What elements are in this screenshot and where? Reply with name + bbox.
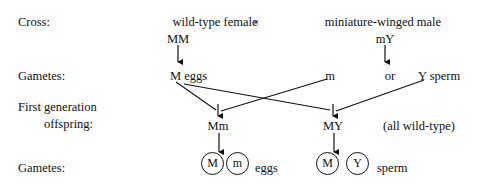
genetics-cross-diagram: Cross: wild-type female × miniature-wing… xyxy=(0,0,485,188)
line-sperm-y-to-my xyxy=(336,80,424,111)
diagram-connectors xyxy=(0,0,485,188)
line-egg-to-my xyxy=(184,84,330,110)
